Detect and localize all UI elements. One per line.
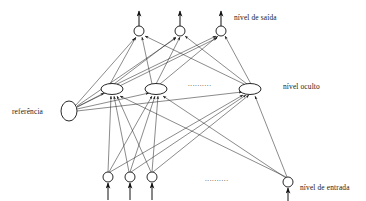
reference-node[interactable] (61, 101, 77, 121)
input-node-i4[interactable] (283, 177, 293, 187)
input-layer-ellipsis: .......... (205, 175, 229, 183)
reference-node-group (61, 101, 77, 121)
output-node-o3[interactable] (216, 26, 226, 36)
edges-hidden-to-output (110, 36, 251, 84)
hidden-node-h3[interactable] (239, 84, 261, 95)
output-layer-nodes (134, 26, 226, 36)
input-layer-nodes (103, 172, 293, 187)
edges-input-to-hidden (108, 95, 287, 178)
input-node-i1[interactable] (103, 172, 113, 182)
hidden-layer-ellipsis: .......... (188, 80, 212, 88)
output-node-o2[interactable] (175, 26, 185, 36)
hidden-layer-label: nível oculto (283, 82, 320, 91)
input-node-i3[interactable] (147, 172, 157, 182)
input-arrows (108, 183, 288, 201)
output-layer-label: nível de saída (234, 13, 277, 22)
input-layer-label: nível de entrada (300, 183, 350, 192)
input-node-i2[interactable] (125, 172, 135, 182)
hidden-node-h2[interactable] (145, 84, 167, 95)
network-canvas: .......... .......... nível de saída nív… (0, 0, 366, 201)
hidden-node-h1[interactable] (101, 84, 123, 95)
reference-label: referência (12, 107, 44, 116)
output-arrows (139, 11, 221, 26)
neural-network-diagram: .......... .......... nível de saída nív… (0, 0, 366, 201)
output-node-o1[interactable] (134, 26, 144, 36)
